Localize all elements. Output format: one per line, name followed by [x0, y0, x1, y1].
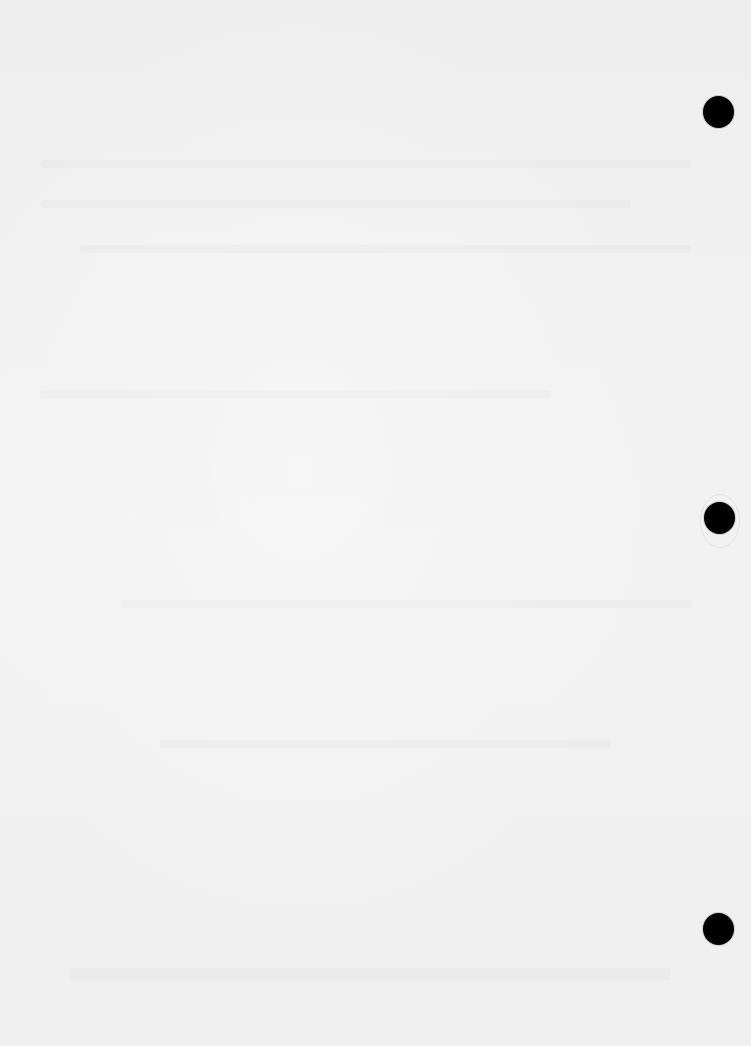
bleed-through-band [120, 600, 691, 608]
bleed-through-band [160, 740, 611, 748]
bleed-through-band [40, 160, 691, 168]
bleed-through-band [70, 968, 671, 980]
bleed-through-band [40, 200, 631, 208]
blank-scanned-page [0, 0, 751, 1046]
punch-hole-middle [704, 502, 735, 534]
bleed-through-band [40, 390, 551, 398]
bleed-through-band [80, 245, 691, 253]
punch-hole-bottom [703, 913, 734, 945]
punch-hole-top [703, 96, 734, 128]
